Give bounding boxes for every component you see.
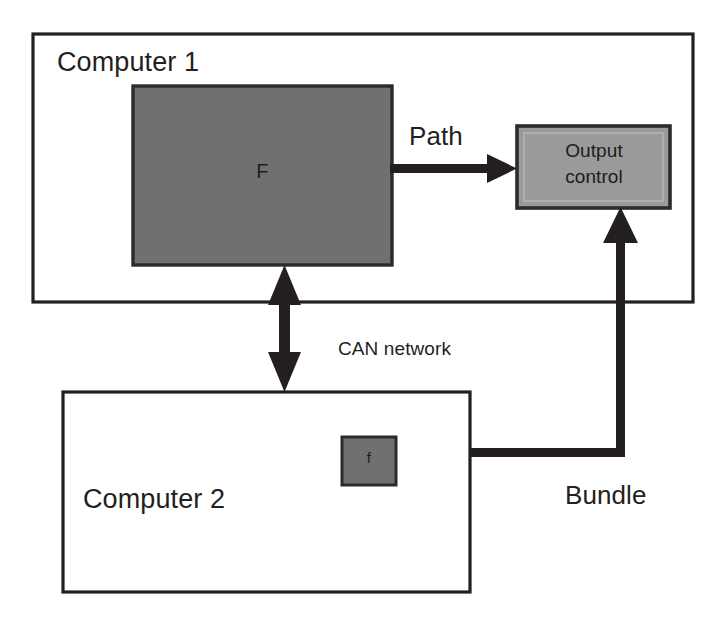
path-connector-label: Path bbox=[409, 122, 463, 150]
output-control-label: Outputcontrol bbox=[519, 138, 669, 189]
output-control-label-line1: Output bbox=[565, 140, 623, 161]
output-control-label-line2: control bbox=[565, 166, 623, 187]
function-block-f-small-label: f bbox=[342, 450, 396, 466]
bundle-connector-label: Bundle bbox=[565, 481, 647, 509]
computer2-label: Computer 2 bbox=[83, 485, 225, 514]
function-block-f-label: F bbox=[133, 161, 392, 183]
computer1-label: Computer 1 bbox=[57, 48, 199, 77]
diagram-vector-layer bbox=[0, 0, 726, 628]
diagram-canvas: Computer 1 Computer 2 F Outputcontrol f … bbox=[0, 0, 726, 628]
can-network-connector-label: CAN network bbox=[338, 339, 451, 360]
